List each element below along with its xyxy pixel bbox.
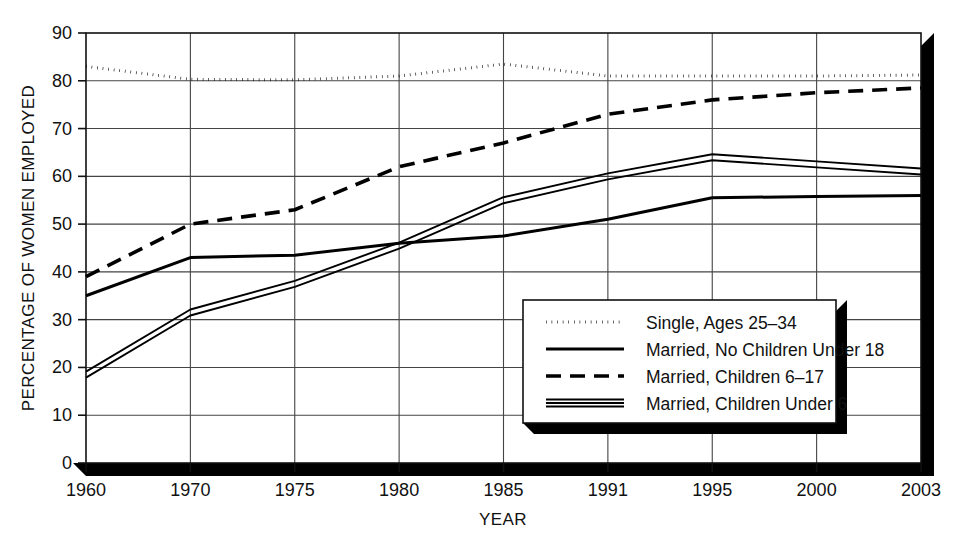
legend-item-label: Married, Children 6–17	[646, 367, 824, 387]
legend-item-label: Married, No Children Under 18	[646, 340, 884, 360]
line-chart: 0102030405060708090 19601970197519801985…	[0, 0, 965, 557]
y-tick-label: 80	[52, 71, 72, 91]
x-tick-label: 1975	[275, 480, 315, 500]
x-tick-label: 1995	[692, 480, 732, 500]
x-tick-label: 1980	[379, 480, 419, 500]
x-tick-label: 1991	[588, 480, 628, 500]
x-tick-label: 1970	[170, 480, 210, 500]
x-tick-label: 2003	[901, 480, 941, 500]
y-tick-label: 40	[52, 262, 72, 282]
chart-container: 0102030405060708090 19601970197519801985…	[0, 0, 965, 557]
y-axis-title: PERCENTAGE OF WOMEN EMPLOYED	[19, 85, 38, 411]
x-tick-label: 1960	[66, 480, 106, 500]
x-axis-title: YEAR	[479, 510, 527, 529]
y-tick-label: 10	[52, 405, 72, 425]
legend: Single, Ages 25–34Married, No Children U…	[523, 300, 884, 434]
y-tick-label: 30	[52, 310, 72, 330]
legend-item-label: Single, Ages 25–34	[646, 313, 797, 333]
legend-item-label: Married, Children Under 6	[646, 394, 847, 414]
x-tick-label: 1985	[483, 480, 523, 500]
y-tick-label: 20	[52, 357, 72, 377]
y-tick-label: 90	[52, 23, 72, 43]
y-axis-ticks: 0102030405060708090	[52, 23, 86, 473]
y-tick-label: 70	[52, 119, 72, 139]
x-tick-label: 2000	[797, 480, 837, 500]
y-tick-label: 0	[62, 453, 72, 473]
y-tick-label: 60	[52, 166, 72, 186]
y-tick-label: 50	[52, 214, 72, 234]
